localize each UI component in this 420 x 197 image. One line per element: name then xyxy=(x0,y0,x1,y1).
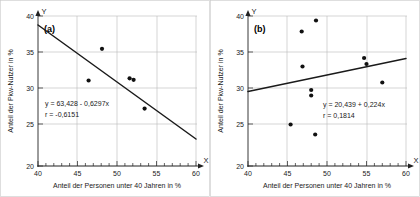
x-axis-title-b: Anteil der Personen unter 40 Jahren in % xyxy=(263,182,391,189)
y-tickmarks-a xyxy=(38,16,43,166)
data-point xyxy=(87,78,91,82)
data-point xyxy=(313,132,317,136)
chart-panel-b: 40 45 50 55 60 20 25 30 35 40 X Y Anteil… xyxy=(210,0,420,197)
panel-label-b: (b) xyxy=(254,24,266,34)
equation-b: y = 20,439 + 0,224x xyxy=(323,101,385,109)
x-axis-letter-a: X xyxy=(203,156,208,165)
data-point xyxy=(300,64,304,68)
scatter-plot-figure: 40 45 50 55 60 20 25 30 35 40 X Y Anteil… xyxy=(0,0,420,197)
y-tick-label-b-4: 40 xyxy=(236,13,244,20)
data-point xyxy=(309,93,313,97)
x-tick-label-a-1: 45 xyxy=(74,170,82,177)
y-tick-label-a-2: 30 xyxy=(26,85,34,92)
y-axis-title-a: Anteil der Pkw-Nutzer in % xyxy=(7,49,14,132)
x-tickmarks-a xyxy=(38,161,196,166)
x-tickmarks-b xyxy=(248,161,406,166)
chart-svg-b: 40 45 50 55 60 20 25 30 35 40 X Y Anteil… xyxy=(210,0,420,197)
data-point xyxy=(380,80,384,84)
gridlines-a xyxy=(38,16,197,166)
y-axis-letter-a: Y xyxy=(41,7,46,16)
gridlines-b xyxy=(248,16,407,166)
data-point xyxy=(128,76,132,80)
data-point xyxy=(132,78,136,82)
y-tick-label-a-3: 35 xyxy=(26,49,34,56)
x-tick-label-b-1: 45 xyxy=(284,170,292,177)
data-point xyxy=(364,62,368,66)
y-axis-arrow-a xyxy=(35,10,40,16)
data-point xyxy=(309,88,313,92)
y-axis-arrow-b xyxy=(245,10,250,16)
y-tick-label-b-3: 35 xyxy=(236,49,244,56)
x-tick-label-a-0: 40 xyxy=(34,170,42,177)
x-tick-label-a-4: 60 xyxy=(192,170,200,177)
chart-svg-a: 40 45 50 55 60 20 25 30 35 40 X Y Anteil… xyxy=(0,0,210,197)
correlation-b: r = 0,1814 xyxy=(323,112,355,119)
correlation-a: r = -0,6151 xyxy=(45,111,79,118)
x-tick-label-b-2: 50 xyxy=(323,170,331,177)
data-point xyxy=(289,122,293,126)
chart-panel-a: 40 45 50 55 60 20 25 30 35 40 X Y Anteil… xyxy=(0,0,210,197)
data-point xyxy=(300,29,304,33)
y-tick-label-b-2: 30 xyxy=(236,85,244,92)
data-point xyxy=(314,18,318,22)
data-point xyxy=(143,107,147,111)
x-tick-label-a-2: 50 xyxy=(113,170,121,177)
equation-a: y = 63,428 - 0,6297x xyxy=(45,100,110,108)
x-tick-label-b-3: 55 xyxy=(363,170,371,177)
x-tick-label-b-4: 60 xyxy=(402,170,410,177)
x-tick-label-a-3: 55 xyxy=(153,170,161,177)
y-tick-label-a-0: 20 xyxy=(26,163,34,170)
axes-a xyxy=(35,10,204,169)
y-tick-label-a-4: 40 xyxy=(26,13,34,20)
data-point xyxy=(100,47,104,51)
y-axis-letter-b: Y xyxy=(251,7,256,16)
x-axis-letter-b: X xyxy=(413,156,418,165)
y-axis-title-b: Anteil der Pkw-Nutzer in % xyxy=(217,49,224,132)
x-axis-title-a: Anteil der Personen unter 40 Jahren in % xyxy=(53,182,181,189)
data-point xyxy=(362,56,366,60)
y-tick-label-b-1: 25 xyxy=(236,121,244,128)
y-tick-label-a-1: 25 xyxy=(26,121,34,128)
axes-b xyxy=(245,10,414,169)
x-tick-label-b-0: 40 xyxy=(244,170,252,177)
y-tick-label-b-0: 20 xyxy=(236,163,244,170)
